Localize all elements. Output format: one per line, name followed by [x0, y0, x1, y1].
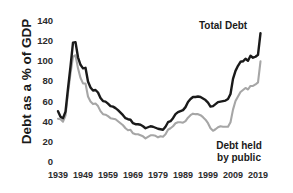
total-debt-line	[58, 33, 261, 130]
x-tick-label: 2019	[241, 170, 275, 181]
public-debt-annotation-line1: Debt held	[200, 140, 278, 152]
series-total-debt	[58, 33, 261, 130]
public-debt-annotation-line2: by public	[200, 152, 278, 164]
x-axis-tick-labels: 193919491959196919791989199920092019	[0, 170, 293, 184]
debt-to-gdp-chart: Debt as a % of GDP 140120100806040200 To…	[0, 0, 293, 193]
plot-area	[0, 0, 293, 193]
public-debt-annotation: Debt held by public	[200, 140, 278, 164]
total-debt-annotation: Total Debt	[199, 20, 247, 32]
